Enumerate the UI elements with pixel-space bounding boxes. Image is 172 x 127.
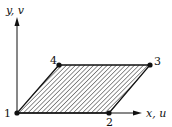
x-axis-arrow-icon bbox=[133, 111, 142, 116]
y-axis-arrow-icon bbox=[15, 17, 20, 26]
node-2-label: 2 bbox=[106, 116, 113, 127]
hatched-region bbox=[17, 65, 150, 113]
x-axis-label: x, u bbox=[146, 107, 166, 120]
node-1-dot bbox=[14, 110, 19, 115]
node-1-label: 1 bbox=[4, 107, 11, 120]
node-4-label: 4 bbox=[50, 54, 57, 67]
node-4-dot bbox=[56, 62, 61, 67]
parallelogram-diagram: y, v x, u 1 2 3 4 bbox=[0, 0, 172, 127]
y-axis-label: y, v bbox=[5, 4, 25, 17]
node-3-dot bbox=[147, 62, 152, 67]
y-axis bbox=[15, 17, 20, 113]
node-2-dot bbox=[106, 110, 111, 115]
node-3-label: 3 bbox=[154, 55, 161, 68]
